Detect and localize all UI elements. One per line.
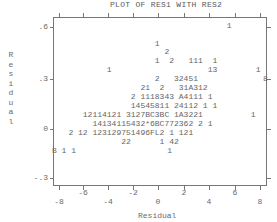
top-tick [209,13,210,17]
ylabel-char: e [7,60,15,70]
plot-row: 2 [54,48,169,56]
ylabel-char: d [7,88,15,98]
ylabel-char: l [7,117,15,127]
top-tick [235,13,236,17]
y-tick [50,178,54,179]
right-tick [267,178,271,179]
y-axis-label: R e s i d u a l [7,50,15,126]
plot-row: 2 32451 [54,75,198,83]
x-tick-label: -4 [98,197,118,206]
x-tick-label: 8 [250,197,270,206]
y-tick-label: .6 [28,22,48,31]
plot-row: 21 2 31A312 [54,84,208,92]
x-tick-label: -2 [123,188,143,197]
x-tick-label: 4 [199,197,219,206]
ylabel-char: i [7,79,15,89]
x-tick [59,186,60,190]
ylabel-char: a [7,107,15,117]
plot-row: 12114121 3127BC3BC 1A3221 1 [54,111,256,119]
x-tick [108,186,109,190]
plot-row: 1 [54,22,232,30]
top-tick [108,13,109,17]
x-axis-label: Residual [138,211,176,220]
x-tick-label: -6 [73,188,93,197]
x-tick [260,186,261,190]
plot-row: 1 13 1 [54,66,260,74]
x-tick-label: -8 [49,197,69,206]
plot-row: 1 2 111 1 [54,57,217,65]
plot-row: 22 1 42 [54,138,179,146]
x-tick-label: 6 [225,188,245,197]
ylabel-char: u [7,98,15,108]
x-tick-label: 0 [148,197,168,206]
ylabel-char: R [7,50,15,60]
top-tick [158,13,159,17]
right-edge-mark: 8 [263,75,268,83]
top-tick [133,13,134,17]
x-tick [158,186,159,190]
chart-title: PLOT OF RES1 WITH RES2 [110,0,222,9]
plot-row: 14545811 24112 1 1 [54,102,217,110]
top-tick [260,13,261,17]
x-tick [209,186,210,190]
right-tick [267,27,271,28]
ylabel-char: s [7,69,15,79]
plot-row: 2 1118343 A4111 1 [54,93,212,101]
y-tick-label: -.3 [28,173,48,182]
plot-row: B 1 1 1 [52,147,172,155]
y-tick-label: .3 [28,74,48,83]
top-tick [83,13,84,17]
plot-row: 14134115432*6BC772362 2 1 [54,120,212,128]
x-tick-label: 2 [174,188,194,197]
top-tick [59,13,60,17]
plot-row: 2 12 123129751496FL2 1 121 [54,129,193,137]
right-tick [267,129,271,130]
top-tick [184,13,185,17]
y-tick-label: 0 [28,124,48,133]
